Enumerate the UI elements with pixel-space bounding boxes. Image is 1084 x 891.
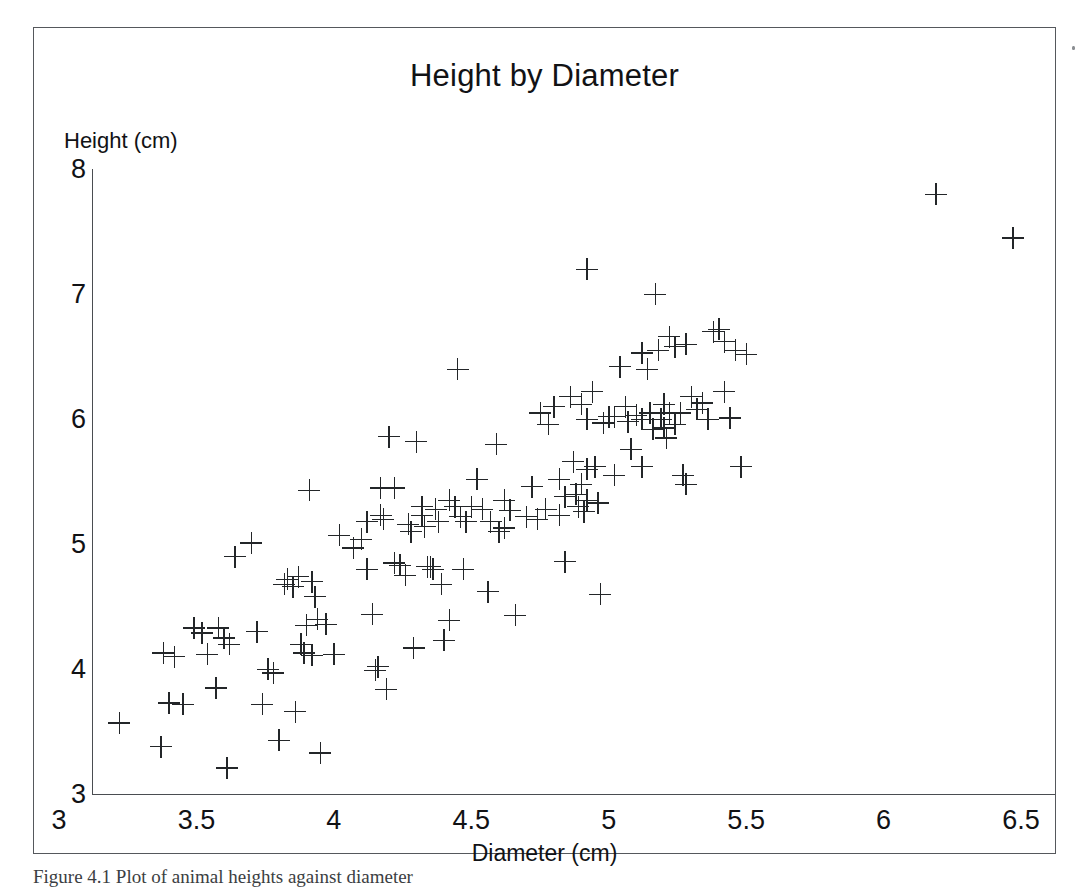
y-tick-label: 3: [71, 779, 86, 810]
x-tick-label: 6.5: [1002, 805, 1040, 836]
y-tick-label: 4: [71, 654, 86, 685]
x-axis-line: [92, 794, 1055, 795]
x-tick-label: 5: [601, 805, 616, 836]
x-tick-label: 4: [326, 805, 341, 836]
x-axis-label: Diameter (cm): [34, 840, 1055, 867]
y-axis-ticks: 345678: [34, 28, 86, 891]
x-tick-label: 6: [876, 805, 891, 836]
figure-page: Height by Diameter Height (cm) Diameter …: [0, 0, 1084, 891]
scatter-plot-area: [92, 169, 1054, 794]
chart-title: Height by Diameter: [34, 58, 1055, 94]
y-tick-label: 5: [71, 529, 86, 560]
figure-frame: Height by Diameter Height (cm) Diameter …: [33, 27, 1056, 854]
y-tick-label: 7: [71, 279, 86, 310]
scan-artifact-speck: [1072, 46, 1075, 50]
x-tick-label: 3: [51, 805, 66, 836]
x-tick-label: 4.5: [453, 805, 491, 836]
y-tick-label: 6: [71, 404, 86, 435]
x-tick-label: 3.5: [178, 805, 216, 836]
figure-caption: Figure 4.1 Plot of animal heights agains…: [33, 866, 913, 888]
y-tick-label: 8: [71, 154, 86, 185]
x-tick-label: 5.5: [727, 805, 765, 836]
